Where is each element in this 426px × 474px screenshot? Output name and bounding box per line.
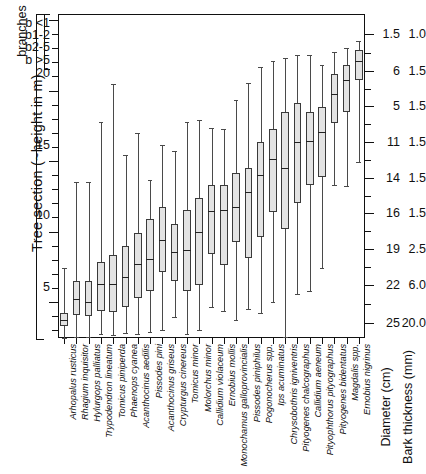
y-tick-5 bbox=[49, 91, 58, 92]
species-label-20: Callidium aeneum bbox=[313, 344, 323, 418]
right-minor-tick-5 bbox=[365, 231, 371, 232]
species-label-4: Tomicus piniperda bbox=[117, 344, 127, 418]
y-tick-22 bbox=[52, 330, 58, 331]
species-label-12: Callidium violaceum bbox=[215, 344, 225, 426]
whisker-cap-upper bbox=[209, 128, 214, 129]
y-tick-21 bbox=[52, 316, 58, 317]
whisker-cap-upper bbox=[135, 133, 140, 134]
whisker-cap-lower bbox=[123, 333, 128, 334]
box-18 bbox=[281, 112, 289, 229]
whisker-cap-upper bbox=[283, 58, 288, 59]
whisker-cap-upper bbox=[111, 84, 116, 85]
whisker-cap-lower bbox=[172, 317, 177, 318]
whisker-lower bbox=[359, 80, 360, 162]
whisker-lower bbox=[126, 307, 127, 333]
right-tick-7 bbox=[365, 285, 374, 286]
y-tick-19 bbox=[52, 288, 58, 289]
whisker-upper bbox=[236, 100, 237, 174]
whisker-cap-upper bbox=[172, 151, 177, 152]
whisker-cap-upper bbox=[320, 65, 325, 66]
whisker-lower bbox=[199, 285, 200, 330]
whisker-lower bbox=[285, 229, 286, 337]
whisker-upper bbox=[359, 41, 360, 50]
median-line bbox=[73, 299, 81, 300]
bark-value-5: 1.5 bbox=[398, 206, 426, 220]
median-line bbox=[171, 252, 179, 253]
whisker-lower bbox=[76, 315, 77, 337]
species-label-8: Acanthocinus griseus bbox=[166, 344, 176, 431]
box-11 bbox=[195, 198, 203, 285]
whisker-lower bbox=[224, 265, 225, 310]
whisker-upper bbox=[334, 52, 335, 74]
diameter-value-1: 6 bbox=[374, 64, 400, 78]
bark-value-8: 20.0 bbox=[398, 316, 426, 330]
species-label-22: Pityogenes bidentatus bbox=[338, 344, 348, 434]
whisker-lower bbox=[297, 203, 298, 294]
box-16 bbox=[257, 142, 265, 237]
median-line bbox=[85, 302, 93, 303]
median-line bbox=[220, 210, 228, 211]
y-tick-18 bbox=[52, 274, 58, 275]
whisker-cap-lower bbox=[307, 291, 312, 292]
whisker-lower bbox=[273, 212, 274, 301]
diameter-value-4: 14 bbox=[374, 171, 400, 185]
whisker-cap-upper bbox=[99, 122, 104, 123]
box-21 bbox=[318, 107, 326, 177]
species-label-3: Trypodendron lineatum bbox=[104, 344, 114, 438]
whisker-lower bbox=[236, 242, 237, 320]
whisker-cap-upper bbox=[344, 48, 349, 49]
whisker-upper bbox=[113, 84, 114, 255]
whisker-upper bbox=[310, 55, 311, 112]
median-line bbox=[306, 141, 314, 142]
diameter-value-8: 25 bbox=[374, 316, 400, 330]
box-17 bbox=[269, 129, 277, 212]
species-label-21: Pityophthorus pityographus bbox=[325, 344, 335, 455]
diameter-value-0: 1.5 bbox=[374, 27, 400, 41]
median-line bbox=[195, 232, 203, 233]
species-label-16: Pogonocherus spp. bbox=[264, 344, 274, 423]
whisker-upper bbox=[150, 180, 151, 219]
median-line bbox=[257, 175, 265, 176]
whisker-upper bbox=[248, 83, 249, 169]
whisker-upper bbox=[297, 55, 298, 103]
median-line bbox=[183, 250, 191, 251]
whisker-cap-lower bbox=[148, 332, 153, 333]
y-tick-label-20: 20 bbox=[36, 66, 50, 80]
diameter-axis-title: Diameter (cm) bbox=[379, 332, 393, 474]
whisker-cap-upper bbox=[246, 83, 251, 84]
right-minor-tick-3 bbox=[365, 160, 371, 161]
whisker-cap-upper bbox=[221, 129, 226, 130]
whisker-cap-upper bbox=[148, 180, 153, 181]
species-label-24: Ernobius nigrinus bbox=[362, 344, 372, 415]
branch-label-3: b >5 bbox=[25, 53, 50, 67]
box-2 bbox=[85, 281, 93, 316]
bark-thickness-axis-title: Bark thickness (mm) bbox=[401, 332, 415, 474]
bark-value-0: 1.0 bbox=[398, 27, 426, 41]
right-tick-5 bbox=[365, 213, 374, 214]
whisker-cap-upper bbox=[332, 52, 337, 53]
y-tick-9 bbox=[52, 147, 58, 148]
median-line bbox=[109, 284, 117, 285]
whisker-lower bbox=[347, 112, 348, 186]
right-minor-tick-2 bbox=[365, 124, 371, 125]
whisker-upper bbox=[273, 61, 274, 130]
whisker-upper bbox=[162, 145, 163, 207]
whisker-cap-lower bbox=[99, 334, 104, 335]
whisker-cap-upper bbox=[307, 55, 312, 56]
species-label-18: Chrysobothris igniventris bbox=[289, 344, 299, 445]
median-line bbox=[294, 142, 302, 143]
median-line bbox=[146, 259, 154, 260]
diameter-value-6: 19 bbox=[374, 242, 400, 256]
right-tick-8 bbox=[365, 323, 374, 324]
box-6 bbox=[134, 233, 142, 298]
right-tick-1 bbox=[365, 71, 374, 72]
whisker-cap-lower bbox=[356, 162, 361, 163]
species-label-1: Rhagium inquisitor bbox=[80, 344, 90, 420]
whisker-cap-upper bbox=[197, 120, 202, 121]
whisker-lower bbox=[212, 254, 213, 307]
median-line bbox=[97, 284, 105, 285]
bark-value-1: 1.5 bbox=[398, 64, 426, 78]
whisker-cap-lower bbox=[271, 302, 276, 303]
whisker-upper bbox=[126, 155, 127, 246]
whisker-cap-lower bbox=[111, 335, 116, 336]
